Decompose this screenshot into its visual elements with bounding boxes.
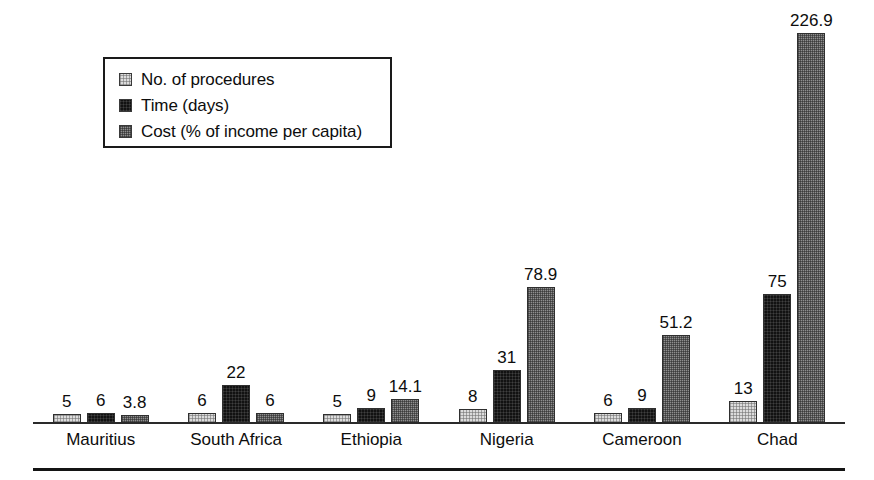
- bar-value-label: 14.1: [389, 377, 422, 396]
- bar: 9: [628, 408, 656, 423]
- bar: 78.9: [527, 287, 555, 423]
- bar-value-label: 9: [367, 386, 376, 405]
- bar: 75: [763, 294, 791, 423]
- x-axis-label: South Africa: [190, 430, 282, 450]
- bar-value-label: 5: [62, 392, 71, 411]
- plot-area: 563.862265914.183178.96951.21375226.9: [33, 10, 845, 423]
- bar-value-label: 8: [468, 387, 477, 406]
- x-axis-label: Cameroon: [602, 430, 681, 450]
- bar-value-label: 226.9: [790, 11, 833, 30]
- bar-value-label: 75: [768, 272, 787, 291]
- bar-group: 1375226.9: [710, 10, 845, 423]
- bar-group-bars: 6226: [168, 10, 303, 423]
- bar-group: 5914.1: [304, 10, 439, 423]
- bar-group-bars: 1375226.9: [710, 10, 845, 423]
- bar: 31: [493, 370, 521, 423]
- bar-group: 6951.2: [574, 10, 709, 423]
- bar-chart: No. of procedures Time (days) Cost (% of…: [0, 0, 874, 480]
- bar-value-label: 3.8: [123, 393, 147, 412]
- bar: 14.1: [391, 399, 419, 423]
- bar-value-label: 22: [227, 363, 246, 382]
- bar-group: 6226: [168, 10, 303, 423]
- x-axis-label: Mauritius: [66, 430, 135, 450]
- bar-value-label: 51.2: [659, 313, 692, 332]
- bar: 226.9: [797, 33, 825, 423]
- bar-group-bars: 6951.2: [574, 10, 709, 423]
- bar-group-bars: 83178.9: [439, 10, 574, 423]
- x-axis-label: Nigeria: [480, 430, 534, 450]
- bar-value-label: 5: [333, 392, 342, 411]
- bottom-rule: [33, 468, 845, 471]
- bar-group-bars: 563.8: [33, 10, 168, 423]
- x-axis-label: Chad: [757, 430, 798, 450]
- bar-value-label: 13: [734, 379, 753, 398]
- bar: 9: [357, 408, 385, 423]
- bar-value-label: 31: [497, 348, 516, 367]
- bar-value-label: 6: [96, 391, 105, 410]
- bar: 13: [729, 401, 757, 423]
- bar-group: 563.8: [33, 10, 168, 423]
- bar-value-label: 6: [265, 391, 274, 410]
- x-axis-line: [33, 422, 845, 424]
- bar-value-label: 9: [637, 386, 646, 405]
- bar: 51.2: [662, 335, 690, 423]
- bar-value-label: 78.9: [524, 265, 557, 284]
- bar: 22: [222, 385, 250, 423]
- x-axis-label: Ethiopia: [341, 430, 402, 450]
- bar-group: 83178.9: [439, 10, 574, 423]
- bar-value-label: 6: [603, 391, 612, 410]
- bar-group-bars: 5914.1: [304, 10, 439, 423]
- bar-value-label: 6: [197, 391, 206, 410]
- bar: 8: [459, 409, 487, 423]
